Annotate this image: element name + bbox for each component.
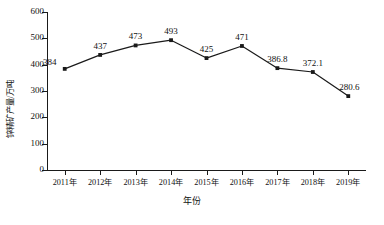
data-point-label: 473 <box>129 32 143 41</box>
data-point-marker <box>311 70 315 74</box>
data-point-label: 280.6 <box>339 83 359 92</box>
data-point-marker <box>240 44 244 48</box>
series-line <box>0 0 384 225</box>
data-point-label: 425 <box>200 45 214 54</box>
data-point-label: 386.8 <box>267 55 287 64</box>
data-point-label: 384 <box>43 58 57 67</box>
data-point-marker <box>98 53 102 57</box>
data-point-label: 493 <box>164 27 178 36</box>
data-point-label: 437 <box>93 42 107 51</box>
line-chart: 0100200300400500600 2011年2012年2013年2014年… <box>0 0 384 225</box>
data-point-marker <box>346 94 350 98</box>
data-point-label: 372.1 <box>303 59 323 68</box>
data-point-marker <box>275 66 279 70</box>
data-point-marker <box>134 44 138 48</box>
data-point-marker <box>205 56 209 60</box>
data-point-label: 471 <box>235 33 249 42</box>
data-point-marker <box>169 38 173 42</box>
data-point-marker <box>63 67 67 71</box>
